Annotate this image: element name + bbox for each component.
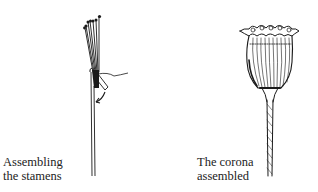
caption-stamens-line2: the stamens: [3, 169, 63, 183]
caption-corona-line2: assembled: [197, 169, 254, 183]
caption-stamens: Assembling the stamens: [3, 155, 63, 183]
caption-corona: The corona assembled: [197, 155, 254, 183]
figure-stamens: Assembling the stamens: [0, 0, 160, 192]
figure-corona: The corona assembled: [160, 0, 318, 192]
caption-stamens-line1: Assembling: [3, 155, 63, 169]
caption-corona-line1: The corona: [197, 155, 254, 169]
